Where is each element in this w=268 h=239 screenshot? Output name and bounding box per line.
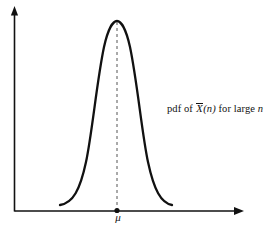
figure-canvas <box>0 0 268 239</box>
annotation-subject: (n) <box>203 103 216 114</box>
annotation-suffix: n <box>258 103 263 114</box>
x-axis-arrowhead-icon <box>234 207 244 215</box>
annotation-prefix: pdf of <box>167 103 196 114</box>
mu-axis-label: μ <box>112 212 124 223</box>
y-axis <box>11 6 18 212</box>
normal-pdf-figure: pdf of X(n) for large n μ <box>0 0 268 239</box>
x-axis <box>15 207 245 215</box>
annotation-middle: for large <box>216 103 258 114</box>
y-axis-arrowhead-icon <box>11 6 18 16</box>
pdf-annotation-label: pdf of X(n) for large n <box>167 103 263 114</box>
pdf-curve <box>60 21 172 205</box>
x-bar-symbol: X <box>196 103 204 114</box>
